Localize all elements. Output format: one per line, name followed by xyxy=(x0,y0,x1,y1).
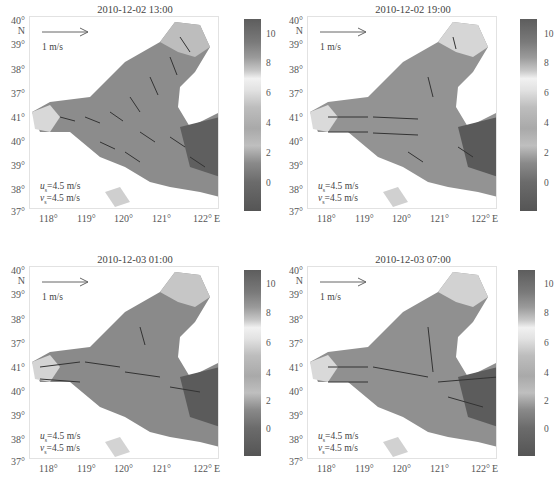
colorbar-tick: 0 xyxy=(266,424,271,434)
x-tick: 119° xyxy=(355,213,374,224)
y-tick: 39° xyxy=(278,411,303,421)
x-tick: 120° xyxy=(114,213,133,224)
y-tick: 40° xyxy=(278,137,303,147)
y-tick: 41° xyxy=(278,113,303,123)
colorbar-tick: 8 xyxy=(266,308,271,318)
legend-vs: vs=4.5 m/s xyxy=(40,193,80,208)
colorbar xyxy=(244,270,261,456)
y-tick: 37° xyxy=(278,339,303,349)
y-tick: 41° xyxy=(278,363,303,373)
colorbar-tick: 0 xyxy=(544,178,549,188)
colorbar-tick: 4 xyxy=(544,118,549,128)
y-tick: 38° xyxy=(278,315,303,325)
scale-arrow-label: 1 m/s xyxy=(42,292,63,302)
y-tick: 38° xyxy=(278,435,303,445)
panel-title: 2010-12-02 19:00 xyxy=(318,4,508,15)
y-tick: 38° xyxy=(0,65,25,75)
colorbar-tick: 10 xyxy=(544,279,554,289)
panel-3: 2010-12-03 01:00 1 m/s us=4.5 m/s vs=4.5… xyxy=(0,250,277,483)
y-tick: 37° xyxy=(278,89,303,99)
x-tick: 119° xyxy=(77,463,96,474)
y-tick: 39° xyxy=(0,40,25,50)
legend-vs: vs=4.5 m/s xyxy=(318,193,358,208)
x-tick: 121° xyxy=(430,213,449,224)
x-tick: 118° xyxy=(317,213,336,224)
x-tick: E xyxy=(214,213,220,224)
colorbar-tick: 2 xyxy=(544,396,549,406)
scale-arrow-label: 1 m/s xyxy=(320,292,341,302)
panel-title: 2010-12-03 07:00 xyxy=(318,254,508,265)
panel-title: 2010-12-02 13:00 xyxy=(40,4,230,15)
colorbar-tick: 0 xyxy=(544,424,549,434)
colorbar-tick: 10 xyxy=(266,279,276,289)
colorbar-tick: 4 xyxy=(266,118,271,128)
x-tick: 121° xyxy=(152,463,171,474)
x-tick: 121° xyxy=(152,213,171,224)
y-tick: 39° xyxy=(0,411,25,421)
x-tick: 118° xyxy=(39,463,58,474)
y-tick: 38° xyxy=(0,315,25,325)
y-tick: 38° xyxy=(0,435,25,445)
y-tick: 40° xyxy=(0,137,25,147)
plot-area: 1 m/s us=4.5 m/s vs=4.5 m/s xyxy=(29,16,219,209)
colorbar-tick: 2 xyxy=(266,396,271,406)
colorbar-tick: 8 xyxy=(544,308,549,318)
x-tick: 122° xyxy=(471,213,490,224)
x-tick: 122° xyxy=(193,463,212,474)
x-tick: 122° xyxy=(471,463,490,474)
y-tick: N xyxy=(0,26,25,36)
plot-area: 1 m/s us=4.5 m/s vs=4.5 m/s xyxy=(307,266,497,459)
x-tick: 118° xyxy=(317,463,336,474)
x-tick: E xyxy=(492,463,498,474)
colorbar-tick: 6 xyxy=(544,88,549,98)
y-tick: 39° xyxy=(278,40,303,50)
scale-arrow-label: 1 m/s xyxy=(320,42,341,52)
y-tick: 41° xyxy=(0,363,25,373)
y-tick: 37° xyxy=(0,207,25,217)
y-tick: 39° xyxy=(278,290,303,300)
x-tick: 119° xyxy=(77,213,96,224)
y-tick: 39° xyxy=(278,161,303,171)
colorbar-tick: 10 xyxy=(266,29,276,39)
scale-arrow-icon xyxy=(42,277,92,287)
colorbar xyxy=(244,19,261,211)
x-tick: 119° xyxy=(355,463,374,474)
y-tick: 37° xyxy=(0,89,25,99)
colorbar-tick: 8 xyxy=(544,58,549,68)
colorbar-tick: 4 xyxy=(266,368,271,378)
y-tick: 37° xyxy=(0,457,25,467)
colorbar-tick: 10 xyxy=(544,29,554,39)
scale-arrow-icon xyxy=(42,27,92,37)
colorbar-tick: 8 xyxy=(266,58,271,68)
y-tick: 39° xyxy=(0,290,25,300)
y-tick: 41° xyxy=(0,113,25,123)
x-tick: 121° xyxy=(430,463,449,474)
x-tick: 120° xyxy=(392,463,411,474)
panel-2: 2010-12-02 19:00 1 m/s us=4.5 m/s vs=4.5… xyxy=(278,0,555,240)
colorbar-tick: 6 xyxy=(544,338,549,348)
colorbar xyxy=(520,19,537,211)
panel-1: 2010-12-02 13:00 1 m/s us=4.5 m/s vs=4.5… xyxy=(0,0,277,240)
plot-area: 1 m/s us=4.5 m/s vs=4.5 m/s xyxy=(29,266,219,459)
plot-area: 1 m/s us=4.5 m/s vs=4.5 m/s xyxy=(307,16,497,209)
colorbar xyxy=(518,270,535,456)
y-tick: 37° xyxy=(278,207,303,217)
colorbar-tick: 6 xyxy=(266,338,271,348)
y-tick: 37° xyxy=(0,339,25,349)
scale-arrow-icon xyxy=(320,277,370,287)
y-tick: 38° xyxy=(0,185,25,195)
x-tick: 118° xyxy=(39,213,58,224)
x-tick: 122° xyxy=(193,213,212,224)
colorbar-tick: 0 xyxy=(266,178,271,188)
y-tick: 39° xyxy=(0,161,25,171)
scale-arrow-label: 1 m/s xyxy=(42,42,63,52)
x-tick: 120° xyxy=(114,463,133,474)
colorbar-tick: 2 xyxy=(544,148,549,158)
y-tick: 37° xyxy=(278,457,303,467)
panel-4: 2010-12-03 07:00 1 m/s us=4.5 m/s vs=4.5… xyxy=(278,250,555,483)
x-tick: 120° xyxy=(392,213,411,224)
y-tick: 40° xyxy=(0,387,25,397)
y-tick: 38° xyxy=(278,185,303,195)
legend-vs: vs=4.5 m/s xyxy=(40,443,80,458)
panel-title: 2010-12-03 01:00 xyxy=(40,254,230,265)
